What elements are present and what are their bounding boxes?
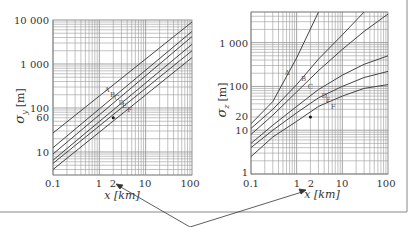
right-ytick-100: 100: [229, 81, 248, 92]
right-ytick-1: 1: [242, 167, 248, 178]
right-xlabel: x [km]: [304, 188, 340, 201]
curve-label-f: F: [127, 106, 132, 114]
curve-b: [53, 31, 192, 147]
right-ytick-1000: 1 000: [219, 38, 248, 49]
svg-text:σz[m]: σz[m]: [214, 82, 231, 117]
sigma-z-plot: ABCDEF: [251, 12, 388, 174]
curve-label-a: A: [284, 69, 291, 77]
left-ytick-10: 10: [36, 147, 49, 158]
marker-point: [112, 116, 115, 119]
left-ytick-1000: 1 000: [20, 59, 49, 70]
right-ylabel: σz[m]: [214, 82, 231, 117]
right-ytick-10: 10: [235, 125, 248, 136]
curve-label-f: F: [331, 103, 336, 111]
curve-c: [251, 14, 388, 134]
curve-label-c: C: [308, 83, 313, 91]
left-xtick-1: 1: [96, 178, 102, 189]
left-ytick-60: 60: [36, 112, 49, 123]
left-xtick-0.1: 0.1: [45, 178, 61, 189]
marker-point: [309, 116, 312, 119]
pointer-arrows: [116, 184, 306, 227]
left-xtick-10: 10: [139, 178, 152, 189]
left-xtick-100: 100: [180, 178, 199, 189]
svg-text:σy[m]: σy[m]: [12, 88, 29, 123]
curve-a: [251, 12, 319, 124]
right-xtick-1: 1: [294, 178, 300, 189]
left-ytick-10000: 10 000: [14, 15, 49, 26]
left-ylabel: σy[m]: [12, 88, 29, 123]
right-xtick-0.1: 0.1: [243, 178, 259, 189]
curve-f: [251, 85, 388, 157]
right-ytick-20: 20: [235, 111, 248, 122]
right-xtick-100: 100: [376, 178, 395, 189]
curve-f: [53, 58, 192, 170]
chart-figure: ABCDEF ABCDEF 10 000 1 000 100 60 10 0.1…: [0, 0, 414, 227]
curve-c: [53, 37, 192, 154]
curve-label-b: B: [301, 75, 306, 83]
sigma-y-plot: ABCDEF: [53, 20, 192, 175]
